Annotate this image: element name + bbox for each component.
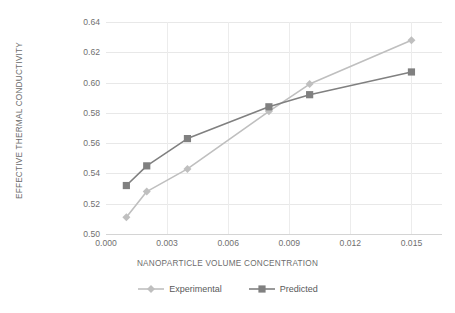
- thermal-conductivity-line-chart: EFFECTIVE THERMAL CONDUCTIVITY 0.500.520…: [0, 0, 455, 313]
- legend-item-experimental[interactable]: Experimental: [137, 283, 222, 295]
- gridline-horizontal: [106, 52, 442, 53]
- y-axis-tick-label: 0.56: [60, 138, 100, 148]
- y-axis-title: EFFECTIVE THERMAL CONDUCTIVITY: [8, 0, 32, 240]
- gridline-vertical: [228, 22, 229, 234]
- legend-item-predicted[interactable]: Predicted: [248, 283, 318, 295]
- x-axis-tick-label: 0.015: [401, 238, 423, 248]
- y-axis-tick-label: 0.58: [60, 108, 100, 118]
- x-axis-title-label: NANOPARTICLE VOLUME CONCENTRATION: [137, 259, 318, 268]
- gridline-vertical: [350, 22, 351, 234]
- x-axis-line: [106, 234, 442, 235]
- x-axis-tick-label: 0.003: [156, 238, 178, 248]
- x-axis-title: NANOPARTICLE VOLUME CONCENTRATION: [0, 259, 455, 268]
- chart-legend: ExperimentalPredicted: [0, 283, 455, 295]
- y-axis-tick-label: 0.54: [60, 168, 100, 178]
- x-axis-tick-label: 0.006: [217, 238, 239, 248]
- x-axis-tick-label: 0.000: [95, 238, 117, 248]
- legend-marker-square-icon: [248, 283, 276, 295]
- y-axis-title-label: EFFECTIVE THERMAL CONDUCTIVITY: [16, 41, 25, 198]
- y-axis-tick-label: 0.52: [60, 199, 100, 209]
- y-axis-tick-label: 0.50: [60, 229, 100, 239]
- legend-label: Predicted: [280, 284, 318, 294]
- x-axis-tick-label: 0.012: [340, 238, 362, 248]
- gridline-horizontal: [106, 113, 442, 114]
- gridline-vertical: [167, 22, 168, 234]
- gridline-horizontal: [106, 204, 442, 205]
- legend-marker-diamond-icon: [137, 283, 165, 295]
- gridline-horizontal: [106, 22, 442, 23]
- plot-area: [106, 22, 442, 234]
- x-axis-tick-label: 0.009: [279, 238, 301, 248]
- gridline-horizontal: [106, 143, 442, 144]
- legend-label: Experimental: [169, 284, 222, 294]
- y-axis-tick-label: 0.64: [60, 17, 100, 27]
- gridline-horizontal: [106, 173, 442, 174]
- y-axis-tick-label: 0.62: [60, 47, 100, 57]
- gridline-vertical: [289, 22, 290, 234]
- y-axis-tick-labels: 0.500.520.540.560.580.600.620.64: [56, 22, 100, 234]
- gridline-vertical: [411, 22, 412, 234]
- y-axis-tick-label: 0.60: [60, 78, 100, 88]
- gridline-horizontal: [106, 83, 442, 84]
